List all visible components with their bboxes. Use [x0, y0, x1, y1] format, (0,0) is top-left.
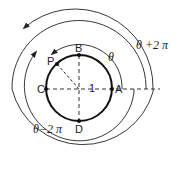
label-a: A	[115, 84, 122, 95]
point-a	[110, 87, 114, 91]
label-d: D	[75, 124, 83, 135]
label-radius: 1	[89, 83, 95, 94]
label-theta-minus-2pi: θ−2 π	[33, 123, 62, 135]
label-theta: θ	[108, 51, 114, 63]
unit-circle-diagram: B P C A D 1 θ θ +2 π θ−2 π	[0, 0, 182, 170]
label-b: B	[75, 43, 82, 54]
radius-op	[57, 64, 79, 89]
point-p	[55, 62, 59, 66]
label-p: P	[47, 56, 54, 67]
label-c: C	[37, 84, 45, 95]
label-theta-plus-2pi: θ +2 π	[136, 39, 168, 51]
